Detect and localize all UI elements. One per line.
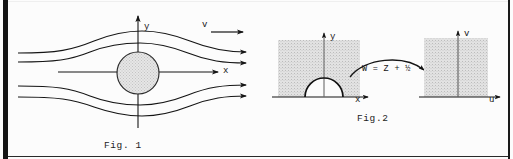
fig2-right-shaded-region xyxy=(424,38,488,97)
fig1-streamline-lower-2 xyxy=(18,96,246,116)
fig2-right-v-axis-label: v xyxy=(464,29,469,39)
fig1-cylinder-disk xyxy=(117,52,159,94)
fig1-group xyxy=(18,16,246,128)
figures-vector-layer xyxy=(0,0,513,159)
fig1-y-axis-label: y xyxy=(144,22,149,32)
fig2-left-x-axis-label: x xyxy=(355,95,360,105)
fig1-caption: Fig. 1 xyxy=(104,140,142,151)
fig2-caption: Fig.2 xyxy=(357,113,389,124)
scanned-figure-page: y x v Fig. 1 y x v u W = Z + ½ Fig.2 xyxy=(0,0,513,159)
fig2-mapping-equation: W = Z + ½ xyxy=(362,64,411,74)
fig2-left-y-axis-label: y xyxy=(330,32,335,42)
fig1-streamline-upper-1 xyxy=(18,31,246,53)
fig1-velocity-label: v xyxy=(202,20,207,30)
fig1-x-axis-label: x xyxy=(223,66,228,76)
fig2-right-u-axis-label: u xyxy=(489,95,494,105)
